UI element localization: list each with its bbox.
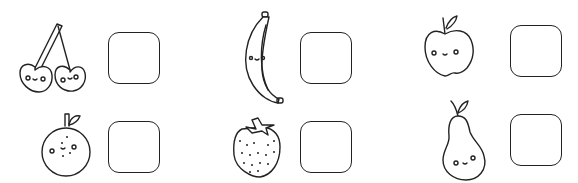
- apple-answer-box[interactable]: [510, 25, 562, 77]
- apple-icon: [423, 12, 493, 92]
- strawberry-answer-box[interactable]: [300, 121, 352, 173]
- orange-icon: [38, 112, 98, 182]
- orange-answer-box[interactable]: [108, 121, 160, 173]
- cherry-answer-box[interactable]: [108, 32, 160, 84]
- banana-answer-box[interactable]: [300, 32, 352, 84]
- pear-answer-box[interactable]: [510, 114, 562, 166]
- pear-icon: [440, 98, 500, 183]
- banana-icon: [235, 10, 295, 110]
- strawberry-icon: [232, 115, 292, 183]
- worksheet: [0, 0, 578, 183]
- cherry-icon: [15, 20, 115, 120]
